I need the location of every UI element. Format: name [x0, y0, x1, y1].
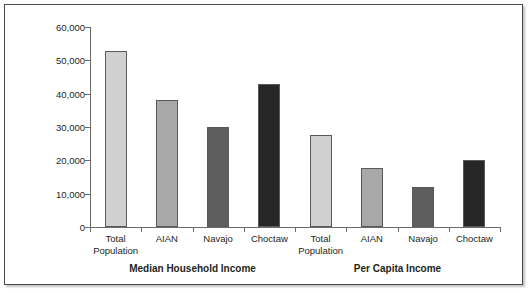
category-label: TotalPopulation	[90, 233, 141, 257]
y-axis-tick-label: 40,000	[56, 88, 85, 99]
category-label: AIAN	[141, 233, 192, 245]
group-title: Per Capita Income	[295, 263, 500, 274]
chart-figure: 010,00020,00030,00040,00050,00060,000 To…	[0, 0, 530, 293]
category-label: AIAN	[346, 233, 397, 245]
category-tick	[193, 227, 194, 232]
category-label-line1: AIAN	[361, 233, 383, 244]
category-label: Choctaw	[244, 233, 295, 245]
category-label: Navajo	[398, 233, 449, 245]
category-label: TotalPopulation	[295, 233, 346, 257]
y-axis-tick-label: 10,000	[56, 188, 85, 199]
category-tick	[346, 227, 347, 232]
chart-frame: 010,00020,00030,00040,00050,00060,000 To…	[4, 4, 523, 285]
group-title: Median Household Income	[90, 263, 295, 274]
category-label-line1: Navajo	[203, 233, 233, 244]
category-tick	[398, 227, 399, 232]
y-axis-tick	[85, 194, 90, 195]
category-tick	[449, 227, 450, 232]
bar	[361, 168, 383, 227]
category-tick	[90, 227, 91, 232]
y-axis-tick	[85, 60, 90, 61]
bar	[412, 187, 434, 227]
y-axis-tick-label: 50,000	[56, 55, 85, 66]
category-label: Navajo	[193, 233, 244, 245]
category-tick	[141, 227, 142, 232]
y-axis-tick-label: 30,000	[56, 122, 85, 133]
category-label-line1: Choctaw	[251, 233, 288, 244]
y-axis-tick-label: 20,000	[56, 155, 85, 166]
bar	[156, 100, 178, 227]
bar	[463, 160, 485, 227]
bar	[207, 127, 229, 227]
category-tick	[500, 227, 501, 232]
category-label: Choctaw	[449, 233, 500, 245]
category-label-line1: Choctaw	[456, 233, 493, 244]
y-axis-tick	[85, 127, 90, 128]
category-label-line2: Population	[295, 245, 346, 257]
y-axis-tick	[85, 27, 90, 28]
y-axis-tick-label: 0	[80, 222, 85, 233]
y-axis-line	[90, 27, 91, 227]
category-label-line1: Total	[106, 233, 126, 244]
category-label-line1: Total	[311, 233, 331, 244]
category-label-line2: Population	[90, 245, 141, 257]
bar	[105, 51, 127, 227]
plot-area: 010,00020,00030,00040,00050,00060,000 To…	[90, 27, 500, 227]
category-label-line1: Navajo	[408, 233, 438, 244]
bar	[258, 84, 280, 227]
category-label-line1: AIAN	[156, 233, 178, 244]
bar	[310, 135, 332, 227]
category-tick	[244, 227, 245, 232]
y-axis-tick	[85, 160, 90, 161]
y-axis-tick	[85, 94, 90, 95]
category-tick	[295, 227, 296, 232]
y-axis-tick-label: 60,000	[56, 22, 85, 33]
